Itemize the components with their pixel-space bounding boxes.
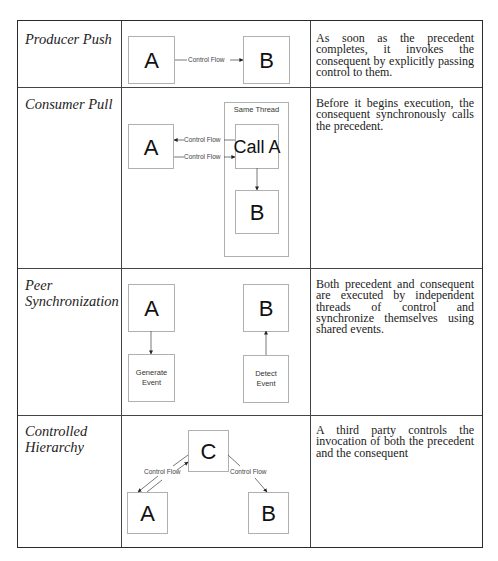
edge-label: Control Flow — [230, 468, 267, 475]
node-label: Event — [142, 378, 162, 387]
node-a-label: A — [140, 501, 155, 526]
diagrams: A B Control Flow Same Thread A Call A B … — [0, 0, 498, 561]
diagram-peer-synchronization: A Generate Event B Detect Event — [129, 285, 289, 403]
node-b-label: B — [261, 501, 276, 526]
edge-label: Control Flow — [188, 56, 225, 63]
node-c-label: C — [201, 439, 217, 464]
node-a-label: A — [144, 296, 159, 321]
arrow-icon — [255, 478, 267, 492]
node-a-label: A — [144, 135, 159, 160]
diagram-controlled-hierarchy: C A B Control Flow Control Flow — [128, 431, 289, 534]
edge-label: Control Flow — [184, 136, 221, 143]
edge-label: Control Flow — [184, 153, 221, 160]
node-b-label: B — [250, 200, 265, 225]
node-a-label: A — [144, 48, 159, 73]
node-label: Detect — [255, 369, 278, 378]
node-call-a-label: Call A — [233, 137, 280, 157]
diagram-producer-push: A B Control Flow — [129, 37, 290, 84]
node-label: Generate — [136, 368, 167, 377]
arrow-icon — [138, 476, 158, 492]
edge-label: Control Flow — [144, 468, 181, 475]
container-label: Same Thread — [234, 105, 279, 114]
node-b-label: B — [259, 48, 274, 73]
diagram-consumer-pull: Same Thread A Call A B Control Flow Cont… — [129, 103, 289, 257]
node-b-label: B — [259, 296, 274, 321]
node-label: Event — [256, 379, 276, 388]
